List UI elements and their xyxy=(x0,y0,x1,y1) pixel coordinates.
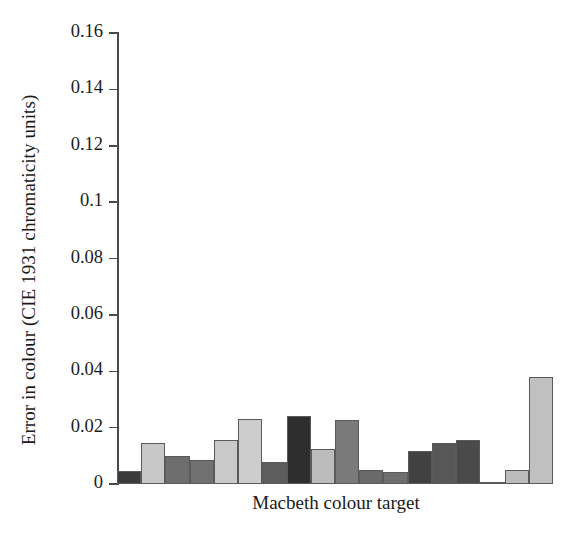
y-tick-mark xyxy=(109,483,117,485)
bar xyxy=(311,449,335,484)
bar xyxy=(408,451,432,484)
y-tick-label: 0.12 xyxy=(0,134,103,155)
y-tick-label: 0.08 xyxy=(0,247,103,268)
bar xyxy=(165,456,189,484)
bar xyxy=(190,460,214,484)
bar xyxy=(117,471,141,484)
y-tick-label: 0.16 xyxy=(0,21,103,42)
y-tick-mark xyxy=(109,258,117,260)
plot-area xyxy=(117,33,555,484)
y-tick-label: 0.02 xyxy=(0,416,103,437)
bar xyxy=(529,377,553,484)
y-tick-label: 0.14 xyxy=(0,77,103,98)
bar xyxy=(287,416,311,484)
chart-figure: Error in colour (CIE 1931 chromaticity u… xyxy=(0,0,578,538)
y-tick-mark xyxy=(109,32,117,34)
y-tick-mark xyxy=(109,314,117,316)
bar xyxy=(238,419,262,484)
x-axis-label: Macbeth colour target xyxy=(117,492,555,514)
bar xyxy=(480,482,504,484)
bar xyxy=(262,462,286,484)
y-tick-mark xyxy=(109,371,117,373)
y-tick-mark xyxy=(109,201,117,203)
bar xyxy=(214,440,238,484)
y-tick-label: 0.04 xyxy=(0,359,103,380)
bar xyxy=(359,470,383,484)
y-tick-label: 0 xyxy=(0,472,103,493)
y-tick-mark xyxy=(109,89,117,91)
bar xyxy=(335,420,359,484)
bar xyxy=(505,470,529,484)
bar xyxy=(456,440,480,484)
y-tick-label: 0.06 xyxy=(0,303,103,324)
bar xyxy=(383,472,407,484)
bar xyxy=(432,443,456,484)
y-tick-mark xyxy=(109,145,117,147)
y-tick-label: 0.1 xyxy=(0,190,103,211)
bar xyxy=(141,443,165,484)
y-tick-mark xyxy=(109,427,117,429)
